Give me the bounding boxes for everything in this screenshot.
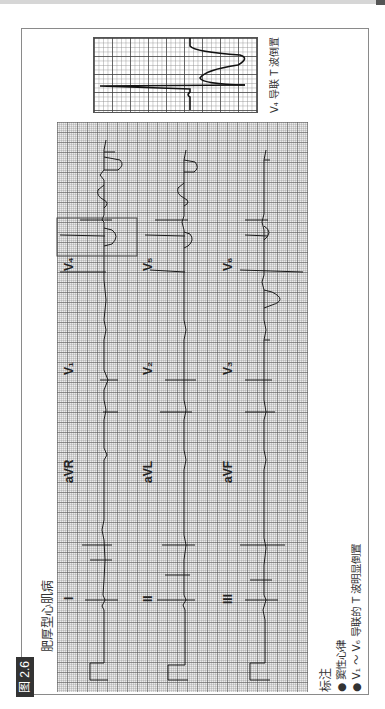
note-item-2: ● V₁ ～ V₆ 导联的 T 波明显倒置 [348,544,363,692]
lead-label-III: III [221,594,235,604]
lead-label-V6: V₆ [221,258,235,271]
note-text-2: V₁ ～ V₆ 导联的 T 波明显倒置 [350,544,362,680]
v4-highlight-box [57,218,137,256]
lead-label-V3: V₃ [221,361,235,375]
figure-title: 肥厚型心肌病 [38,580,55,652]
ecg-traces [0,0,385,709]
note-text-1: 窦性心律 [335,640,347,680]
lead-label-II: II [141,595,155,602]
lead-label-V5: V₅ [141,257,155,271]
notes-heading: 标注 [316,668,333,692]
lead-label-V4: V₄ [62,257,76,271]
lead-label-aVR: aVR [62,460,76,483]
lead-label-aVL: aVL [141,461,155,483]
lead-label-V2: V₂ [141,362,155,375]
figure-number-badge: 图 2.6 [16,657,34,697]
lead-label-V1: V₁ [62,362,76,375]
lead-label-I: I [62,597,76,600]
lead-label-aVF: aVF [221,461,235,483]
inset-trace [100,38,245,110]
note-item-1: ● 窦性心律 [333,640,348,693]
inset-caption: V₄ 导联 T 波倒置 [266,37,281,114]
trace-row-3 [240,150,303,680]
